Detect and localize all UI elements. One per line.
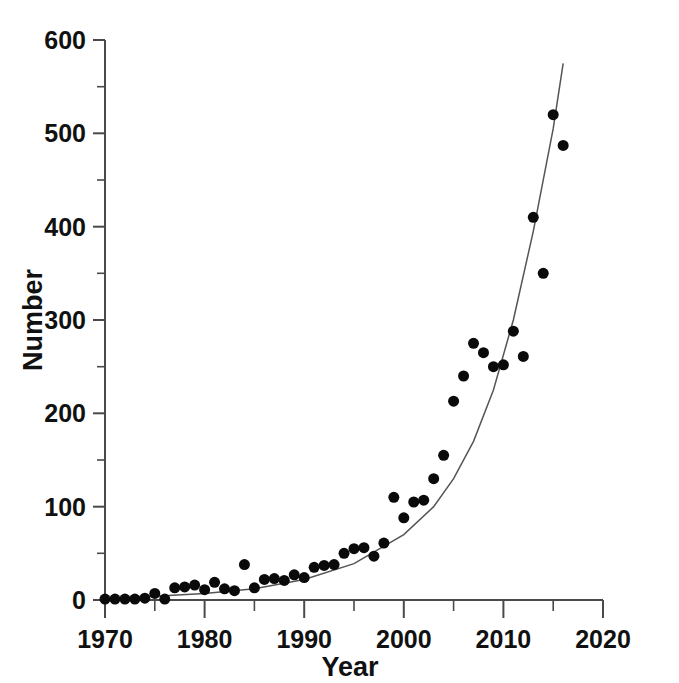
data-point <box>478 347 489 358</box>
x-axis-ticks <box>105 600 603 618</box>
scatter-plot: 0 100 200 300 400 500 600 1970 1980 1990… <box>0 0 679 683</box>
data-point <box>329 559 340 570</box>
data-point <box>368 551 379 562</box>
data-point <box>538 268 549 279</box>
data-point <box>139 593 150 604</box>
y-tick-label-500: 500 <box>44 119 86 147</box>
data-point <box>498 359 509 370</box>
x-tick-label-1980: 1980 <box>177 625 233 653</box>
data-point <box>448 396 459 407</box>
data-point <box>468 338 479 349</box>
y-tick-label-300: 300 <box>44 306 86 334</box>
data-point <box>508 326 519 337</box>
data-point <box>129 594 140 605</box>
x-tick-label-1990: 1990 <box>276 625 332 653</box>
data-point <box>458 371 469 382</box>
data-point <box>438 450 449 461</box>
data-point <box>558 140 569 151</box>
y-axis-ticks <box>93 40 105 600</box>
y-tick-label-200: 200 <box>44 399 86 427</box>
data-point <box>398 512 409 523</box>
y-axis-title: Number <box>18 269 48 372</box>
data-point <box>339 548 350 559</box>
data-point <box>428 473 439 484</box>
data-point <box>219 583 230 594</box>
data-point <box>319 560 330 571</box>
y-tick-label-600: 600 <box>44 26 86 54</box>
data-point <box>100 594 111 605</box>
y-tick-label-400: 400 <box>44 213 86 241</box>
y-tick-label-100: 100 <box>44 493 86 521</box>
data-point <box>119 594 130 605</box>
data-point <box>149 588 160 599</box>
data-point <box>528 212 539 223</box>
data-point <box>299 572 310 583</box>
data-point <box>488 361 499 372</box>
data-point <box>548 109 559 120</box>
data-point <box>249 582 260 593</box>
data-point <box>199 584 210 595</box>
data-point <box>418 495 429 506</box>
x-tick-label-2020: 2020 <box>575 625 631 653</box>
data-point <box>209 577 220 588</box>
data-point <box>109 594 120 605</box>
data-point <box>189 580 200 591</box>
data-point <box>229 585 240 596</box>
data-point <box>408 497 419 508</box>
x-axis-title: Year <box>321 652 379 682</box>
data-point <box>289 569 300 580</box>
data-point <box>259 574 270 585</box>
x-tick-label-2000: 2000 <box>376 625 432 653</box>
data-point <box>239 559 250 570</box>
chart-figure: 0 100 200 300 400 500 600 1970 1980 1990… <box>0 0 679 683</box>
data-point <box>169 582 180 593</box>
exponential-fit-curve <box>105 63 563 598</box>
data-point <box>309 562 320 573</box>
data-point <box>159 594 170 605</box>
data-points-group <box>100 109 569 604</box>
data-point <box>279 575 290 586</box>
data-point <box>518 351 529 362</box>
fit-curve-group <box>105 63 563 598</box>
data-point <box>179 581 190 592</box>
data-point <box>378 538 389 549</box>
x-tick-label-2010: 2010 <box>476 625 532 653</box>
x-tick-label-1970: 1970 <box>77 625 133 653</box>
y-tick-label-0: 0 <box>72 586 86 614</box>
data-point <box>269 573 280 584</box>
data-point <box>349 543 360 554</box>
data-point <box>388 492 399 503</box>
data-point <box>358 542 369 553</box>
